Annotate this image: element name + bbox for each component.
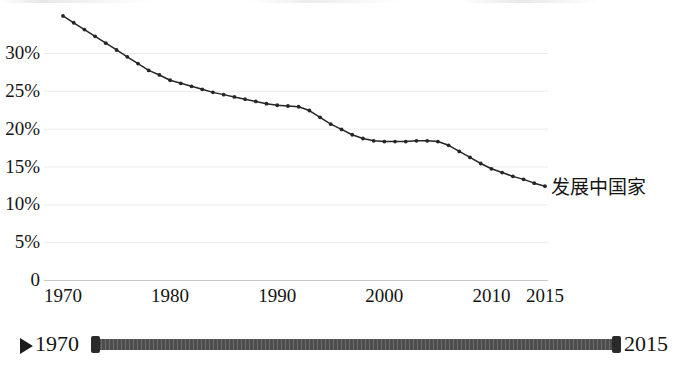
data-point[interactable]	[104, 41, 108, 45]
data-point[interactable]	[93, 34, 97, 38]
data-point[interactable]	[265, 102, 269, 106]
gridlines	[44, 54, 548, 243]
x-tick-label: 1970	[44, 286, 82, 306]
data-point[interactable]	[318, 115, 322, 119]
slider-start-year-label: 1970	[35, 331, 79, 357]
x-tick-label: 1980	[151, 286, 189, 306]
data-point[interactable]	[393, 140, 397, 144]
series-label-developing-countries: 发展中国家	[551, 177, 646, 198]
y-tick-label: 25%	[5, 81, 40, 100]
y-tick-label: 20%	[5, 119, 40, 138]
data-point[interactable]	[254, 100, 258, 104]
top-crop-artifact	[0, 0, 685, 3]
data-point[interactable]	[243, 97, 247, 101]
data-point[interactable]	[286, 104, 290, 108]
data-point[interactable]	[297, 105, 301, 109]
slider-end-year-label: 2015	[624, 331, 668, 357]
data-point[interactable]	[147, 69, 151, 73]
data-point[interactable]	[436, 140, 440, 144]
data-point[interactable]	[307, 109, 311, 113]
data-point[interactable]	[232, 95, 236, 99]
data-point[interactable]	[415, 139, 419, 143]
data-point[interactable]	[511, 174, 515, 178]
data-point[interactable]	[468, 156, 472, 160]
data-point[interactable]	[200, 87, 204, 91]
y-tick-label: 15%	[5, 157, 40, 176]
data-point[interactable]	[125, 55, 129, 59]
data-point[interactable]	[190, 84, 194, 88]
data-series-developing-countries	[61, 14, 547, 188]
data-point[interactable]	[222, 93, 226, 97]
data-point[interactable]	[61, 14, 65, 18]
data-point[interactable]	[168, 78, 172, 82]
y-axis-tick-labels: 30%25%20%15%10%5%0	[0, 0, 40, 320]
x-tick-label: 1990	[258, 286, 296, 306]
data-point[interactable]	[532, 181, 536, 185]
data-point[interactable]	[382, 140, 386, 144]
data-point[interactable]	[83, 28, 87, 32]
data-point[interactable]	[404, 140, 408, 144]
data-point[interactable]	[543, 184, 547, 188]
series-line	[63, 16, 545, 186]
play-icon[interactable]	[20, 338, 33, 354]
data-point[interactable]	[522, 177, 526, 181]
data-point[interactable]	[479, 162, 483, 166]
data-point[interactable]	[372, 139, 376, 143]
y-tick-label: 0	[31, 270, 41, 289]
time-slider[interactable]: 1970 2015	[0, 322, 685, 374]
chart-plot-area	[0, 0, 685, 320]
data-point[interactable]	[340, 128, 344, 132]
data-point[interactable]	[361, 137, 365, 141]
data-point[interactable]	[275, 103, 279, 107]
x-tick-label: 2010	[472, 286, 510, 306]
data-point[interactable]	[350, 133, 354, 137]
y-tick-label: 10%	[5, 194, 40, 213]
slider-track[interactable]	[93, 339, 619, 350]
y-tick-label: 30%	[5, 43, 40, 62]
data-point[interactable]	[457, 149, 461, 153]
chart-figure: 30%25%20%15%10%5%0 197019801990200020102…	[0, 0, 685, 320]
data-point[interactable]	[115, 48, 119, 52]
data-point[interactable]	[179, 81, 183, 85]
y-tick-label: 5%	[15, 232, 40, 251]
slider-track-texture	[93, 339, 619, 350]
slider-handle-right[interactable]	[612, 336, 621, 353]
x-tick-label: 2015	[526, 286, 564, 306]
data-point[interactable]	[158, 73, 162, 77]
data-point[interactable]	[500, 171, 504, 175]
data-point[interactable]	[447, 143, 451, 147]
data-point[interactable]	[72, 21, 76, 25]
data-point[interactable]	[329, 122, 333, 126]
x-tick-label: 2000	[365, 286, 403, 306]
data-point[interactable]	[211, 90, 215, 94]
data-point[interactable]	[136, 62, 140, 66]
data-point[interactable]	[425, 139, 429, 143]
data-point[interactable]	[490, 167, 494, 171]
slider-handle-left[interactable]	[91, 336, 100, 353]
